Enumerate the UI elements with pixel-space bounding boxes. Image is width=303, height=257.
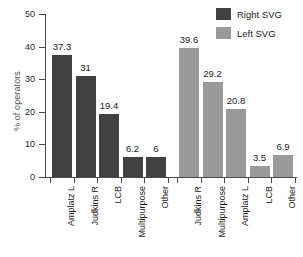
- x-category-label: Amplatz L: [66, 186, 76, 226]
- y-tick-label: 50: [11, 10, 35, 19]
- x-category-label: Other: [160, 186, 170, 209]
- legend-label-right-svg: Right SVG: [237, 9, 282, 20]
- bar-value-label: 20.8: [220, 96, 252, 106]
- y-tick-mark: [39, 79, 45, 80]
- y-tick-mark: [39, 144, 45, 145]
- bar: [226, 109, 246, 177]
- x-tick-mark: [97, 178, 98, 183]
- x-tick-mark: [201, 178, 202, 183]
- y-tick-label: 0: [11, 173, 35, 182]
- x-tick-mark: [295, 178, 296, 183]
- x-tick-mark: [50, 178, 51, 183]
- y-tick-mark: [39, 177, 45, 178]
- y-tick-mark: [39, 47, 45, 48]
- x-tick-mark: [74, 178, 75, 183]
- x-category-label: LCB: [264, 186, 274, 204]
- legend-swatch-left-svg: [216, 27, 231, 39]
- bar: [76, 76, 96, 177]
- legend: Right SVG Left SVG: [216, 8, 282, 46]
- bar: [179, 48, 199, 177]
- y-tick-label: 30: [11, 75, 35, 84]
- bar: [123, 157, 143, 177]
- x-category-label: Multipurpose: [137, 186, 147, 238]
- x-category-label: LCB: [113, 186, 123, 204]
- legend-item-left-svg[interactable]: Left SVG: [216, 27, 282, 39]
- x-tick-mark: [177, 178, 178, 183]
- bar-value-label: 37.3: [46, 42, 78, 52]
- bar-value-label: 39.6: [173, 35, 205, 45]
- bar: [250, 166, 270, 177]
- y-tick-label: 40: [11, 43, 35, 52]
- x-tick-mark: [224, 178, 225, 183]
- legend-swatch-right-svg: [216, 8, 231, 20]
- bar: [146, 157, 166, 177]
- bar: [52, 55, 72, 177]
- x-category-label: Other: [287, 186, 297, 209]
- bar-value-label: 6.9: [267, 142, 299, 152]
- y-axis-label: % of operators: [12, 56, 22, 146]
- x-tick-mark: [121, 178, 122, 183]
- x-category-label: Judkins R: [90, 186, 100, 226]
- x-tick-mark: [168, 178, 169, 183]
- x-tick-mark: [248, 178, 249, 183]
- bar-value-label: 3.5: [244, 153, 276, 163]
- y-axis-line: [45, 14, 46, 178]
- bar-chart: % of operators 01020304050 37.33119.46.2…: [0, 0, 303, 257]
- y-tick-mark: [39, 14, 45, 15]
- x-category-label: Judkins R: [193, 186, 203, 226]
- x-category-label: Multipurpose: [217, 186, 227, 238]
- legend-item-right-svg[interactable]: Right SVG: [216, 8, 282, 20]
- x-axis-line: [45, 177, 297, 178]
- bar-value-label: 29.2: [197, 69, 229, 79]
- bar-value-label: 19.4: [93, 101, 125, 111]
- x-category-label: Amplatz L: [240, 186, 250, 226]
- y-tick-label: 10: [11, 140, 35, 149]
- bar: [273, 155, 293, 177]
- bar-value-label: 31: [70, 63, 102, 73]
- x-tick-mark: [271, 178, 272, 183]
- x-tick-mark: [144, 178, 145, 183]
- y-tick-label: 20: [11, 108, 35, 117]
- y-tick-mark: [39, 112, 45, 113]
- legend-label-left-svg: Left SVG: [237, 28, 276, 39]
- bar-value-label: 6: [140, 144, 172, 154]
